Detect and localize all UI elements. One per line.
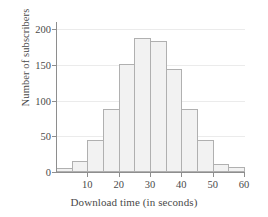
y-axis-tick-label: 100 <box>35 95 51 106</box>
histogram-bar <box>213 164 230 172</box>
x-axis-tick <box>181 173 182 177</box>
x-axis-title: Download time (in seconds) <box>0 196 268 208</box>
x-axis-tick-label: 50 <box>207 179 218 190</box>
x-axis-tick-label: 30 <box>145 179 156 190</box>
x-axis-tick-label: 40 <box>176 179 187 190</box>
y-axis-title: Number of subscribers <box>20 0 31 133</box>
histogram-bar <box>119 64 136 172</box>
x-axis-tick <box>244 173 245 177</box>
y-axis-tick-label: 200 <box>35 24 51 35</box>
histogram-bar <box>181 109 198 172</box>
gridline <box>57 29 245 30</box>
y-axis-tick-label: 150 <box>35 59 51 70</box>
x-axis-tick-label: 10 <box>82 179 93 190</box>
histogram-bar <box>72 161 89 172</box>
histogram-chart: Number of subscribers 050100150200 10203… <box>0 0 268 217</box>
y-axis-tick-label: 0 <box>46 167 51 178</box>
x-axis-line <box>56 172 245 173</box>
histogram-bar <box>150 41 167 172</box>
x-axis-tick-label: 20 <box>113 179 124 190</box>
x-axis-tick <box>119 173 120 177</box>
histogram-bar <box>166 69 183 172</box>
histogram-bar <box>103 109 120 172</box>
plot-area: 050100150200 102030405060 <box>56 22 244 172</box>
histogram-bar <box>134 38 151 172</box>
x-axis-tick-label: 60 <box>239 179 250 190</box>
histogram-bar <box>197 140 214 172</box>
x-axis-tick <box>213 173 214 177</box>
histogram-bar <box>87 140 104 172</box>
x-axis-tick <box>150 173 151 177</box>
y-axis-line <box>56 22 57 172</box>
y-axis-tick-label: 50 <box>41 131 52 142</box>
x-axis-tick <box>87 173 88 177</box>
